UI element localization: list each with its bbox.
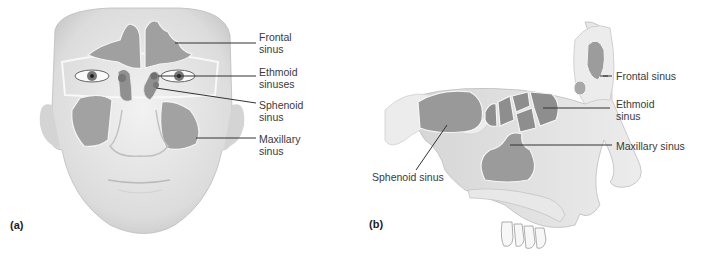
sagittal-skull-illustration	[385, 22, 641, 249]
label-maxillary-sinus-b: Maxillary sinus	[616, 140, 685, 152]
panel-a-letter: (a)	[10, 219, 23, 231]
label-ethmoid-sinus-b: Ethmoid sinus	[616, 98, 655, 122]
label-ethmoid-sinuses-a: Ethmoid sinuses	[259, 66, 298, 90]
ethmoid-left	[118, 69, 132, 101]
label-sphenoid-sinus-b: Sphenoid sinus	[372, 171, 444, 183]
panel-b-letter: (b)	[369, 218, 383, 230]
label-frontal-sinus-a: Frontal sinus	[259, 31, 292, 55]
teeth	[501, 222, 546, 248]
sphenoid-sinus-profile	[418, 91, 483, 132]
label-sphenoid-sinus-a: Sphenoid sinus	[259, 99, 303, 123]
frontal-face-illustration	[0, 0, 705, 261]
label-frontal-sinus-b: Frontal sinus	[616, 70, 676, 82]
label-maxillary-sinus-a: Maxillary sinus	[259, 133, 300, 157]
